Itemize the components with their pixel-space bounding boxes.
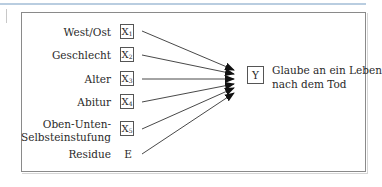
outcome-box-y: Y (247, 66, 264, 84)
outcome-label-line2: nach dem Tod (272, 77, 382, 91)
outcome-label: Glaube an ein Leben nach dem Tod (272, 63, 382, 91)
outcome-label-line1: Glaube an ein Leben (272, 63, 382, 77)
